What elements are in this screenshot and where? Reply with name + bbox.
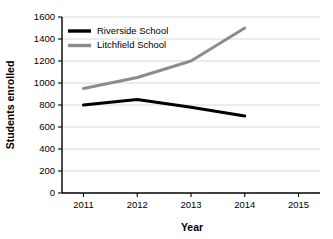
y-tick-label: 1000 xyxy=(34,77,55,88)
y-tick-label: 1400 xyxy=(34,33,55,44)
y-axis-title: Students enrolled xyxy=(4,61,16,150)
line-chart: 02004006008001000120014001600 2011201220… xyxy=(0,0,333,239)
y-tick-label: 200 xyxy=(39,165,55,176)
x-tick-label: 2011 xyxy=(73,199,93,210)
y-tick-label: 1200 xyxy=(34,55,55,66)
y-tick-label: 800 xyxy=(39,99,55,110)
y-tick-label: 0 xyxy=(50,187,55,198)
y-tick-label: 600 xyxy=(39,121,55,132)
x-axis-title: Year xyxy=(181,221,203,233)
x-tick-label: 2012 xyxy=(127,199,148,210)
legend-label: Riverside School xyxy=(97,25,168,36)
legend-label: Litchfield School xyxy=(97,39,166,50)
x-tick-label: 2015 xyxy=(288,199,309,210)
y-tick-label: 1600 xyxy=(34,11,55,22)
x-tick-label: 2013 xyxy=(180,199,201,210)
x-tick-label: 2014 xyxy=(234,199,255,210)
y-tick-label: 400 xyxy=(39,143,55,154)
chart-canvas: 02004006008001000120014001600 2011201220… xyxy=(0,0,333,239)
